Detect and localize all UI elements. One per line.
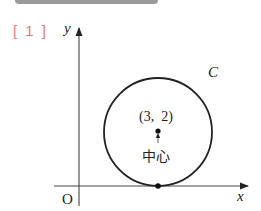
- center-point: [155, 128, 160, 133]
- y-axis-label: y: [64, 20, 71, 37]
- center-caption: 中心: [142, 145, 170, 165]
- coordinate-diagram: [0, 0, 261, 211]
- origin-label: O: [62, 191, 73, 208]
- tangent-point: [155, 183, 161, 189]
- x-axis-label: x: [237, 188, 244, 205]
- center-coordinate-label: (3, 2): [139, 109, 173, 125]
- circle-name-label: C: [208, 64, 218, 81]
